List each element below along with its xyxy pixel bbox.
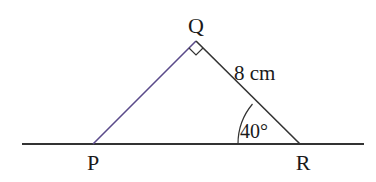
angle-label: 40° <box>240 120 268 142</box>
vertex-label-q: Q <box>188 13 204 38</box>
side-pq <box>93 41 196 144</box>
side-length-label: 8 cm <box>234 61 275 85</box>
vertex-label-r: R <box>296 150 311 175</box>
vertex-label-p: P <box>87 150 99 175</box>
triangle-diagram: Q P R 8 cm 40° <box>0 0 376 182</box>
right-angle-marker <box>189 48 203 55</box>
